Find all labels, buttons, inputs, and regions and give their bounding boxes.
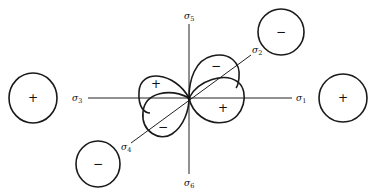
sign-minus: −	[276, 25, 286, 39]
sign-plus: +	[151, 77, 161, 91]
axis-label-sigma3: σ3	[72, 93, 82, 105]
origin-point	[187, 96, 191, 100]
sign-plus: +	[218, 101, 228, 115]
axis-label-sigma4: σ4	[121, 142, 131, 154]
axis-label-sigma2: σ2	[252, 45, 262, 57]
ligand-orbital-left: +	[9, 73, 57, 123]
ligand-orbital-right: +	[319, 74, 367, 122]
ligand-orbital-bottom-left: −	[76, 141, 120, 187]
orbital-diagram: σ5 σ6 σ3 σ1 σ2 σ4 + + − − + − − +	[0, 0, 375, 196]
central-lobe-upper-right: −	[189, 55, 239, 98]
sign-minus: −	[158, 120, 168, 134]
sign-minus: −	[211, 59, 221, 73]
axis-label-sigma5: σ5	[184, 11, 194, 23]
axis-label-sigma6: σ6	[184, 178, 194, 190]
ligand-orbital-top-right: −	[258, 9, 304, 55]
central-lobe-lower-right: +	[189, 78, 244, 123]
sign-plus: +	[338, 91, 348, 105]
central-lobe-lower-left: −	[143, 93, 189, 137]
sign-minus: −	[93, 157, 103, 171]
axis-label-sigma1: σ1	[296, 93, 306, 105]
sign-plus: +	[28, 91, 38, 105]
